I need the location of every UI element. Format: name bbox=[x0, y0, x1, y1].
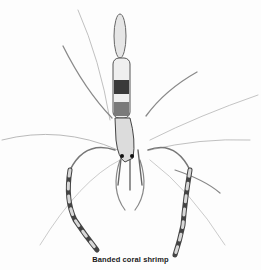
figure-caption: Banded coral shrimp bbox=[0, 255, 261, 264]
shrimp-illustration bbox=[0, 0, 261, 270]
tail-fan bbox=[114, 14, 126, 58]
antenna-left-upper bbox=[78, 10, 110, 120]
illustration-canvas: Banded coral shrimp bbox=[0, 0, 261, 270]
